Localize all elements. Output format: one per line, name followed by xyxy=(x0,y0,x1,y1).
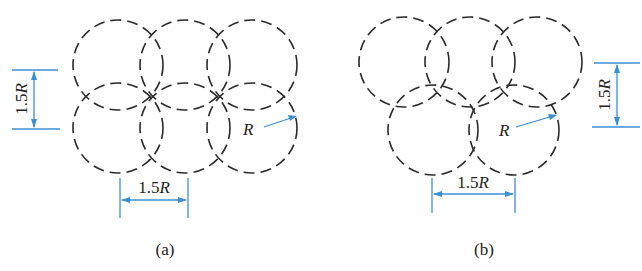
arrow-up-icon xyxy=(31,71,37,80)
panel-a-radius-marker: R xyxy=(242,115,297,139)
panel-b-horizontal-dimension: 1.5R xyxy=(432,173,515,213)
arrow-right-icon xyxy=(178,197,187,203)
radius-label: R xyxy=(242,120,254,139)
panel-b-caption: (b) xyxy=(474,240,494,259)
vertical-spacing-label: 1.5R xyxy=(12,83,31,115)
arrow-up-icon xyxy=(614,64,620,73)
panel-b-vertical-dimension: 1.5R xyxy=(592,63,640,127)
panel-a-caption: (a) xyxy=(156,240,175,259)
arrow-down-icon xyxy=(614,117,620,126)
dashed-circle-r2-c2 xyxy=(140,83,230,173)
dashed-circle-r2-c2 xyxy=(469,85,559,175)
horizontal-spacing-label: 1.5R xyxy=(138,178,170,197)
dashed-circle-r1-c3 xyxy=(492,17,582,107)
circle-layout-figure: 1.5R 1.5R R (a) 1.5R xyxy=(0,0,642,271)
arrow-left-icon xyxy=(121,197,130,203)
arrow-down-icon xyxy=(31,119,37,128)
horizontal-spacing-label: 1.5R xyxy=(457,173,489,192)
dashed-circle-r1-c2 xyxy=(425,17,515,107)
arrow-right-icon xyxy=(505,191,514,197)
radius-leader-line xyxy=(516,116,553,127)
arrow-right-icon xyxy=(548,114,557,120)
panel-b-circles xyxy=(359,17,582,175)
panel-b: 1.5R 1.5R R (b) xyxy=(359,17,640,259)
panel-a-vertical-dimension: 1.5R xyxy=(12,70,60,129)
radius-label: R xyxy=(498,121,510,140)
panel-a-circles xyxy=(73,20,297,173)
panel-b-radius-marker: R xyxy=(498,114,557,140)
dashed-circle-r1-c1 xyxy=(359,17,449,107)
panel-a: 1.5R 1.5R R (a) xyxy=(12,20,297,259)
arrow-left-icon xyxy=(433,191,442,197)
panel-a-horizontal-dimension: 1.5R xyxy=(120,178,188,218)
dashed-circle-r2-c1 xyxy=(73,83,163,173)
vertical-spacing-label: 1.5R xyxy=(595,79,614,111)
dashed-circle-r2-c1 xyxy=(388,85,478,175)
